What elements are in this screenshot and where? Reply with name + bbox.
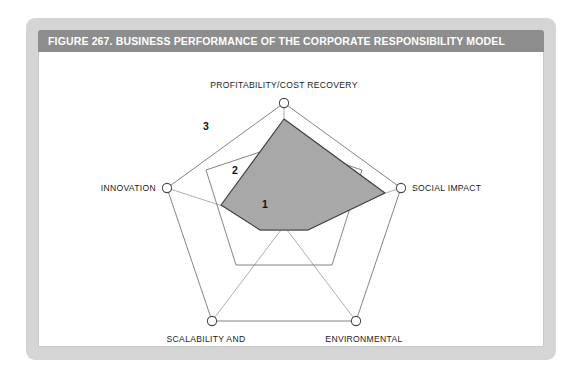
series-polygon-corporate-responsibility (221, 119, 385, 230)
axis-label-scalability-line2: REPLICABILITY (173, 345, 240, 347)
figure-title: FIGURE 267. BUSINESS PERFORMANCE OF THE … (38, 35, 505, 47)
ring-label-2: 2 (232, 164, 238, 176)
figure-card: FIGURE 267. BUSINESS PERFORMANCE OF THE … (26, 18, 556, 360)
radar-chart-panel: 1 2 3 PROFITABILITY/COST RECOVERY SOCIAL… (38, 52, 544, 347)
ring-label-3: 3 (203, 120, 209, 132)
vertex-marker-environmental-impact (351, 316, 360, 325)
axis-label-profitability: PROFITABILITY/COST RECOVERY (210, 80, 358, 90)
radar-chart: 1 2 3 PROFITABILITY/COST RECOVERY SOCIAL… (39, 52, 544, 347)
axis-label-innovation: INNOVATION (101, 183, 156, 193)
spoke-scalability (212, 226, 284, 321)
spoke-environmental-impact (284, 226, 356, 321)
axis-label-scalability-line1: SCALABILITY AND (167, 334, 246, 344)
axis-label-environmental-impact-line1: ENVIRONMENTAL (325, 334, 402, 344)
vertex-marker-innovation (162, 183, 171, 192)
vertex-marker-profitability (279, 98, 288, 107)
ring-label-1: 1 (262, 198, 268, 210)
vertex-marker-scalability (207, 316, 216, 325)
figure-title-bar: FIGURE 267. BUSINESS PERFORMANCE OF THE … (38, 30, 544, 52)
axis-label-environmental-impact-line2: IMPACT (347, 345, 381, 347)
vertex-marker-social-impact (396, 183, 405, 192)
axis-label-social-impact: SOCIAL IMPACT (412, 183, 482, 193)
